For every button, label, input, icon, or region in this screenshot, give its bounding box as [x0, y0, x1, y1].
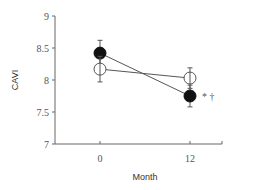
svg-text:8.5: 8.5 — [37, 43, 50, 54]
x-axis-title: Month — [132, 172, 157, 182]
series — [94, 40, 196, 107]
svg-text:7: 7 — [44, 139, 49, 150]
svg-text:9: 9 — [44, 11, 49, 22]
svg-text:8: 8 — [44, 75, 49, 86]
y-ticks: 77.588.59 — [37, 11, 56, 150]
y-axis-title: CAVI — [10, 70, 20, 90]
filled-marker — [184, 90, 196, 102]
svg-text:0: 0 — [98, 153, 103, 164]
chart: 77.588.59 012 * † Month CAVI — [0, 0, 254, 190]
svg-text:7.5: 7.5 — [37, 107, 50, 118]
significance-annotation: * † — [202, 91, 215, 102]
svg-text:12: 12 — [185, 153, 195, 164]
